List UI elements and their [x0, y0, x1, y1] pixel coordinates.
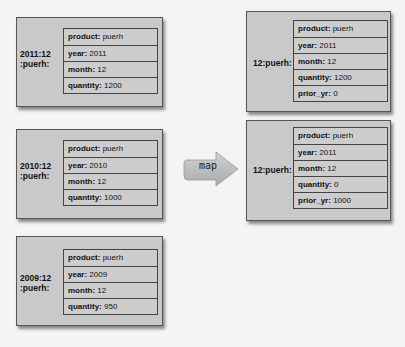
- input-record-2009: 2009:12 :puerh: product: puerh year: 200…: [16, 236, 163, 326]
- record-key: 2011:12 :puerh:: [20, 49, 51, 69]
- field-value: 2009: [87, 270, 107, 279]
- field-product: product: puerh: [294, 21, 387, 37]
- field-year: year: 2011: [294, 37, 387, 53]
- field-value: 2011: [317, 148, 336, 157]
- field-value: 1200: [102, 81, 122, 90]
- record-key-line1: 2009:12: [20, 273, 51, 283]
- field-value: 2011: [317, 41, 336, 50]
- field-name: month:: [68, 177, 95, 186]
- field-name: month:: [298, 164, 325, 173]
- field-year: year: 2010: [64, 157, 157, 173]
- field-month: month: 12: [294, 53, 387, 69]
- field-month: month: 12: [64, 61, 157, 77]
- field-value: 950: [102, 302, 118, 311]
- field-name: product:: [68, 253, 100, 262]
- field-name: prior_yr:: [298, 89, 331, 98]
- field-value: 1000: [331, 196, 351, 205]
- field-value: 12: [95, 286, 106, 295]
- field-month: month: 12: [64, 282, 157, 298]
- field-value: 1200: [332, 73, 352, 82]
- field-month: month: 12: [294, 160, 387, 176]
- field-product: product: puerh: [64, 250, 157, 266]
- field-value: 1000: [102, 193, 122, 202]
- field-name: month:: [68, 65, 95, 74]
- field-quantity: quantity: 1200: [294, 69, 387, 85]
- field-value: 12: [95, 65, 106, 74]
- field-name: prior_yr:: [298, 196, 331, 205]
- record-key-line1: 2010:12: [20, 161, 51, 171]
- field-value: 2010: [87, 161, 107, 170]
- field-product: product: puerh: [64, 29, 157, 45]
- field-name: year:: [298, 41, 317, 50]
- field-year: year: 2009: [64, 266, 157, 282]
- field-name: quantity:: [298, 180, 332, 189]
- field-value: 2011: [87, 49, 106, 58]
- record-key-line1: 2011:12: [20, 49, 51, 59]
- field-value: puerh: [100, 144, 123, 153]
- record-key-line2: :puerh:: [20, 283, 51, 293]
- record-fields: product: puerh year: 2010 month: 12 quan…: [63, 140, 158, 206]
- field-year: year: 2011: [64, 45, 157, 61]
- field-quantity: quantity: 0: [294, 176, 387, 192]
- field-year: year: 2011: [294, 144, 387, 160]
- field-quantity: quantity: 950: [64, 298, 157, 314]
- map-label: map: [192, 160, 224, 171]
- record-fields: product: puerh year: 2009 month: 12 quan…: [63, 249, 158, 315]
- record-key-line2: :puerh:: [20, 59, 51, 69]
- field-name: quantity:: [68, 81, 102, 90]
- field-month: month: 12: [64, 173, 157, 189]
- field-name: year:: [68, 270, 87, 279]
- record-fields: product: puerh year: 2011 month: 12 quan…: [293, 127, 388, 209]
- input-record-2010: 2010:12 :puerh: product: puerh year: 201…: [16, 129, 163, 219]
- field-value: 12: [325, 164, 336, 173]
- field-name: year:: [68, 49, 87, 58]
- field-name: product:: [68, 32, 100, 41]
- field-value: puerh: [100, 32, 123, 41]
- field-quantity: quantity: 1000: [64, 189, 157, 205]
- field-quantity: quantity: 1200: [64, 77, 157, 93]
- record-key: 12:puerh:: [253, 58, 292, 68]
- field-prior-yr: prior_yr: 1000: [294, 192, 387, 208]
- field-value: 12: [325, 57, 336, 66]
- field-name: product:: [298, 131, 330, 140]
- field-product: product: puerh: [64, 141, 157, 157]
- field-value: 0: [332, 180, 339, 189]
- output-record-2: 12:puerh: product: puerh year: 2011 mont…: [246, 120, 391, 221]
- record-key: 2009:12 :puerh:: [20, 273, 51, 293]
- field-value: puerh: [330, 24, 353, 33]
- field-name: product:: [298, 24, 330, 33]
- field-name: month:: [298, 57, 325, 66]
- record-key: 12:puerh:: [253, 165, 292, 175]
- field-name: quantity:: [68, 193, 102, 202]
- field-value: 12: [95, 177, 106, 186]
- field-product: product: puerh: [294, 128, 387, 144]
- field-name: year:: [68, 161, 87, 170]
- record-key: 2010:12 :puerh:: [20, 161, 51, 181]
- field-value: 0: [331, 89, 338, 98]
- field-name: product:: [68, 144, 100, 153]
- output-record-1: 12:puerh: product: puerh year: 2011 mont…: [246, 11, 391, 112]
- field-name: quantity:: [298, 73, 332, 82]
- field-prior-yr: prior_yr: 0: [294, 85, 387, 101]
- field-value: puerh: [330, 131, 353, 140]
- record-fields: product: puerh year: 2011 month: 12 quan…: [63, 28, 158, 94]
- record-fields: product: puerh year: 2011 month: 12 quan…: [293, 20, 388, 102]
- field-name: month:: [68, 286, 95, 295]
- field-name: quantity:: [68, 302, 102, 311]
- record-key-line2: :puerh:: [20, 171, 51, 181]
- field-value: puerh: [100, 253, 123, 262]
- field-name: year:: [298, 148, 317, 157]
- input-record-2011: 2011:12 :puerh: product: puerh year: 201…: [16, 17, 163, 107]
